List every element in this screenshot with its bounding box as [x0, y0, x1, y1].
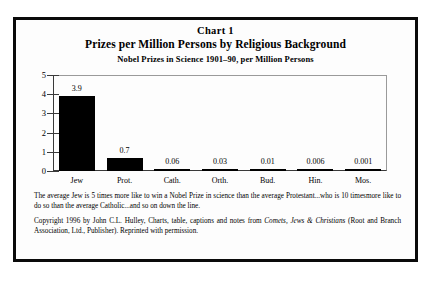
y-axis-tick-label: 1 — [42, 148, 46, 157]
chart-figure-inner: Chart 1 Prizes per Million Persons by Re… — [16, 20, 415, 259]
y-axis-tick-label: 2 — [42, 128, 46, 137]
y-axis-tick-label: 0 — [42, 167, 46, 176]
x-axis-category-label: Mos. — [355, 177, 371, 185]
bar-group: 0.001Mos. — [339, 75, 387, 171]
bar-value-label: 3.9 — [72, 85, 82, 93]
bar-value-label: 0.001 — [354, 158, 372, 166]
x-axis-category-label: Orth. — [212, 177, 229, 185]
bar — [345, 169, 381, 171]
bar — [107, 158, 143, 171]
y-axis-tick — [47, 171, 59, 172]
x-axis-category-label: Hin. — [308, 177, 322, 185]
bar-value-label: 0.7 — [120, 147, 130, 155]
x-axis-category-label: Cath. — [164, 177, 181, 185]
chart-title: Prizes per Million Persons by Religious … — [16, 38, 415, 50]
plot-area: 012345 3.9Jew0.7Prot.0.06Cath.0.03Orth.0… — [53, 75, 387, 171]
bar-value-label: 0.006 — [306, 158, 324, 166]
chart-figure-frame: Chart 1 Prizes per Million Persons by Re… — [13, 17, 418, 262]
bar-value-label: 0.06 — [165, 158, 179, 166]
chart-caption: The average Jew is 5 times more like to … — [34, 191, 401, 212]
chart-number-heading: Chart 1 — [16, 25, 415, 36]
y-axis-tick-label: 5 — [42, 71, 46, 80]
bar — [297, 169, 333, 171]
chart-subtitle: Nobel Prizes in Science 1901–90, per Mil… — [16, 54, 415, 64]
copyright-note: Copyright 1996 by John C.L. Hulley, Char… — [34, 216, 401, 237]
bar-group: 0.03Orth. — [196, 75, 244, 171]
bar — [250, 169, 286, 171]
book-title: Comets, Jews & Christians — [264, 217, 345, 225]
bar-group: 0.01Bud. — [244, 75, 292, 171]
bar-group: 0.06Cath. — [148, 75, 196, 171]
bar-group: 0.006Hin. — [292, 75, 340, 171]
copyright-text-part1: Copyright 1996 by John C.L. Hulley, Char… — [34, 217, 264, 225]
bar-group: 3.9Jew — [53, 75, 101, 171]
bar-group: 0.7Prot. — [101, 75, 149, 171]
x-axis-category-label: Bud. — [260, 177, 275, 185]
x-axis-category-label: Prot. — [117, 177, 132, 185]
y-axis-tick-label: 3 — [42, 109, 46, 118]
bar — [59, 96, 95, 171]
y-axis-tick-label: 4 — [42, 90, 46, 99]
x-axis-category-label: Jew — [71, 177, 83, 185]
bar-value-label: 0.03 — [213, 158, 227, 166]
bar — [202, 169, 238, 171]
bar-value-label: 0.01 — [261, 158, 275, 166]
bar — [154, 169, 190, 171]
